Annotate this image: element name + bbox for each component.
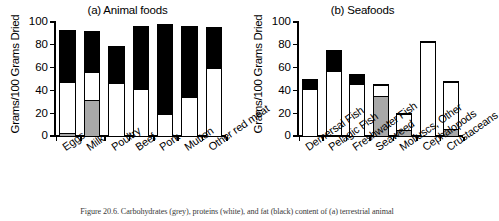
- panel-b-x-labels: Demersal FishPelagic FishFreshwater Fish…: [299, 139, 463, 197]
- y-axis-tick-label: 0: [285, 129, 291, 141]
- y-axis-tick: [50, 21, 54, 23]
- bar-segment-protein: [302, 89, 318, 137]
- y-axis-tick-label: 40: [35, 84, 48, 96]
- bar-segment-protein: [59, 82, 76, 135]
- bar-slot: [80, 21, 104, 135]
- panel-a-bars: [56, 21, 226, 135]
- chart-panel-a: (a) Animal foods Grams/100 Grams Dried 0…: [0, 0, 237, 200]
- y-axis-tick: [293, 67, 297, 69]
- y-axis-tick: [293, 135, 297, 137]
- y-axis-tick: [293, 21, 297, 23]
- y-axis-tick-label: 100: [272, 15, 291, 27]
- stacked-bar[interactable]: [157, 24, 174, 136]
- bar-slot: [129, 21, 153, 135]
- y-axis-tick-label: 0: [42, 129, 48, 141]
- y-axis-tick: [50, 67, 54, 69]
- bar-segment-fat: [206, 27, 223, 69]
- stacked-bar[interactable]: [108, 46, 125, 135]
- y-axis-tick: [293, 113, 297, 115]
- stacked-bar[interactable]: [59, 30, 76, 136]
- bar-segment-fat: [59, 30, 76, 84]
- y-axis-tick-label: 20: [278, 107, 291, 119]
- y-axis-tick: [293, 44, 297, 46]
- panel-b-y-axis-label: Grams/100 Grams Dried: [252, 9, 264, 139]
- y-axis-tick: [293, 90, 297, 92]
- bar-segment-fat: [157, 24, 174, 116]
- figure-caption: Figure 20.6. Carbohydrates (grey), prote…: [0, 207, 474, 216]
- bar-segment-protein: [181, 97, 198, 137]
- bar-slot: [177, 21, 201, 135]
- bar-segment-fat: [133, 26, 150, 90]
- bar-slot: [202, 21, 226, 135]
- y-axis-tick-label: 40: [278, 84, 291, 96]
- y-axis-tick: [50, 113, 54, 115]
- y-axis-tick: [50, 135, 54, 137]
- y-axis-tick-label: 20: [35, 107, 48, 119]
- y-axis-tick-label: 100: [29, 15, 48, 27]
- bar-slot: [104, 21, 128, 135]
- panel-a-y-axis-label: Grams/100 Grams Dried: [9, 9, 21, 139]
- bar-segment-fat: [181, 26, 198, 98]
- stacked-bar[interactable]: [84, 31, 101, 136]
- bar-slot: [153, 21, 177, 135]
- bar-segment-protein: [108, 83, 125, 137]
- y-axis-tick-label: 80: [35, 38, 48, 50]
- y-axis-tick-label: 60: [35, 61, 48, 73]
- stacked-bar[interactable]: [206, 27, 223, 135]
- bar-segment-fat: [326, 50, 342, 72]
- y-axis-tick: [50, 44, 54, 46]
- stacked-bar[interactable]: [133, 26, 150, 136]
- bar-segment-fat: [84, 31, 101, 73]
- bar-segment-carbohydrate: [84, 100, 101, 137]
- bar-slot: [56, 21, 80, 135]
- y-axis-tick: [50, 90, 54, 92]
- chart-panel-b: (b) Seafoods Grams/100 Grams Dried 02040…: [237, 0, 474, 200]
- y-axis-tick-label: 60: [278, 61, 291, 73]
- panel-a-x-labels: EggsMilkPoultryBeefPorkMuttonOther red m…: [56, 139, 226, 197]
- bar-slot: [299, 21, 322, 135]
- panel-a-plot-area: 020406080100: [54, 21, 226, 137]
- y-axis-tick-label: 80: [278, 38, 291, 50]
- bar-segment-protein: [84, 72, 101, 102]
- bar-segment-fat: [108, 46, 125, 84]
- stacked-bar[interactable]: [181, 26, 198, 136]
- stacked-bar[interactable]: [302, 79, 318, 136]
